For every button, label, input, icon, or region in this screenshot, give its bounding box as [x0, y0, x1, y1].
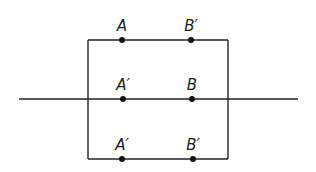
point-label: B′	[184, 17, 198, 35]
labeled-points: AB′A′BA′B′	[114, 17, 200, 162]
point-dot	[188, 37, 194, 43]
diagram-canvas: AB′A′BA′B′	[0, 0, 316, 172]
point-label: A	[116, 17, 127, 35]
point-dot	[190, 156, 196, 162]
point-label: B	[187, 76, 197, 94]
point-dot	[120, 96, 126, 102]
point-label: A′	[114, 136, 129, 154]
point-label: A′	[115, 76, 130, 94]
point-dot	[119, 156, 125, 162]
point-dot	[189, 96, 195, 102]
point-dot	[119, 37, 125, 43]
point-label: B′	[186, 136, 200, 154]
